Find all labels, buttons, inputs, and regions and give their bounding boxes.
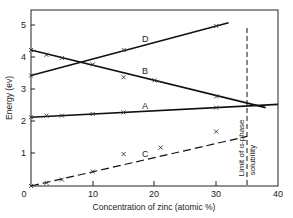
label-C: C	[142, 149, 149, 159]
y-tick-5: 5	[21, 20, 26, 30]
y-tick-3: 3	[21, 84, 26, 94]
y-tick-2: 2	[21, 116, 26, 126]
x-tick-20: 20	[149, 189, 159, 199]
x-tick-40: 40	[273, 189, 283, 199]
data-markers	[29, 24, 218, 188]
y-tick-1: 1	[21, 148, 26, 158]
y-axis-title: Energy (ev)	[4, 76, 14, 120]
series-A	[31, 104, 278, 117]
series-B	[31, 50, 266, 108]
label-A: A	[142, 101, 148, 111]
label-B: B	[142, 66, 148, 76]
label-D: D	[142, 34, 149, 44]
x-tick-10: 10	[88, 189, 98, 199]
y-tick-4: 4	[21, 52, 26, 62]
annotation-line2: solubility	[248, 145, 257, 176]
x-tick-30: 30	[211, 189, 221, 199]
x-axis	[93, 181, 216, 186]
series-D	[31, 23, 229, 76]
x-tick-0: 0	[21, 189, 26, 199]
energy-vs-zinc-chart: 1 2 3 4 5 0 10 20 30 40 Concentration of…	[0, 0, 293, 218]
x-axis-title: Concentration of zinc (atomic %)	[93, 202, 216, 212]
y-axis	[31, 25, 35, 153]
annotation-line1: Limit of α-phase	[237, 119, 246, 177]
